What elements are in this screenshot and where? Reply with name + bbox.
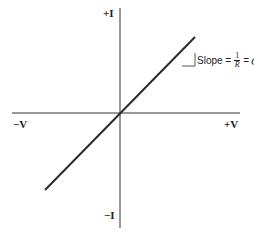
- slope-triangle: [182, 53, 195, 66]
- slope-result: G: [251, 55, 254, 67]
- label-negative-current: −I: [104, 210, 115, 221]
- slope-annotation: Slope = 1 R = G: [197, 52, 254, 69]
- label-positive-voltage: +V: [224, 119, 238, 130]
- slope-equals: =: [243, 55, 249, 66]
- label-negative-voltage: −V: [13, 119, 27, 130]
- label-positive-current-text: +I: [103, 7, 114, 19]
- slope-prefix: Slope =: [197, 55, 231, 66]
- label-negative-current-text: −I: [104, 209, 115, 221]
- label-positive-current: +I: [103, 8, 114, 19]
- slope-fraction: 1 R: [234, 52, 240, 69]
- iv-graph: [0, 0, 254, 233]
- label-positive-voltage-text: +V: [224, 118, 238, 130]
- slope-denominator: R: [235, 61, 240, 69]
- label-negative-voltage-text: −V: [13, 118, 27, 130]
